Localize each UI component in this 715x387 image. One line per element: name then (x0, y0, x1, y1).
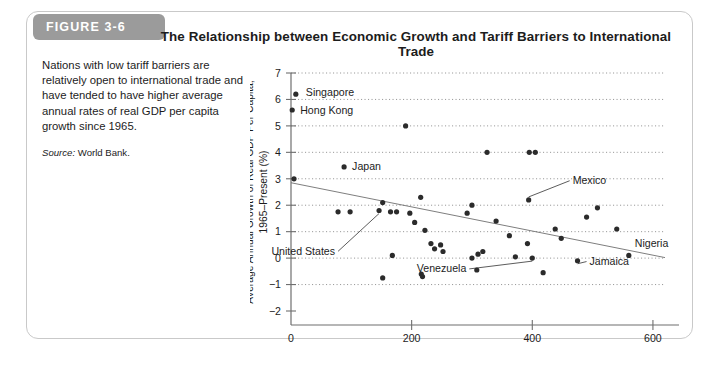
x-tick-group: 0200400600 (288, 320, 662, 344)
data-point (507, 233, 512, 238)
data-point (525, 241, 530, 246)
data-point (553, 226, 558, 231)
scatter-plot-svg: −2−101234567 0200400600 SingaporeHong Ko… (250, 58, 690, 358)
data-point (559, 236, 564, 241)
data-point (418, 195, 423, 200)
point-label: United States (271, 245, 335, 257)
data-point (533, 150, 538, 155)
point-label: Hong Kong (300, 104, 353, 116)
caption-source: Source: World Bank. (42, 147, 250, 158)
data-point (575, 258, 580, 263)
y-tick-label: 3 (275, 173, 281, 185)
label-leader-line (338, 214, 379, 252)
data-point (407, 211, 412, 216)
point-label: Japan (352, 160, 381, 172)
source-word: Source: (42, 147, 75, 158)
figure-number-label: FIGURE 3-6 (46, 20, 126, 34)
data-point (293, 92, 298, 97)
data-point (390, 253, 395, 258)
data-point (480, 249, 485, 254)
data-point (432, 246, 437, 251)
label-leader-line (529, 181, 570, 197)
y-axis-title-line: Average Annual Growth of Real GDP Per Ca… (250, 80, 255, 303)
y-tick-label: 5 (275, 120, 281, 132)
data-point (526, 197, 531, 202)
data-point (380, 200, 385, 205)
point-label: Singapore (306, 86, 354, 98)
trendline-group (291, 183, 665, 258)
data-point (614, 226, 619, 231)
data-point (412, 220, 417, 225)
data-point (290, 107, 295, 112)
caption-body: Nations with low tariff barriers are rel… (42, 58, 250, 134)
data-point (493, 218, 498, 223)
y-tick-label: 4 (275, 146, 281, 158)
y-axis-title-group: Average Annual Growth of Real GDP Per Ca… (250, 80, 269, 303)
data-point (474, 267, 479, 272)
point-label: Jamaica (590, 255, 630, 267)
data-point (527, 150, 532, 155)
y-tick-label: 7 (275, 67, 281, 79)
figure-caption: Nations with low tariff barriers are rel… (42, 58, 250, 158)
data-point (541, 270, 546, 275)
y-tick-label: 1 (275, 225, 281, 237)
data-points-group (290, 92, 632, 281)
data-point (475, 252, 480, 257)
data-point (394, 209, 399, 214)
label-leader-line (469, 261, 532, 269)
y-tick-label: −2 (269, 305, 281, 317)
data-point (348, 209, 353, 214)
trend-line (291, 183, 665, 258)
data-point (341, 164, 346, 169)
y-tick-label: 6 (275, 93, 281, 105)
source-value: World Bank. (75, 147, 130, 158)
data-point (484, 150, 489, 155)
data-point (403, 123, 408, 128)
data-point (380, 275, 385, 280)
y-tick-label: 2 (275, 199, 281, 211)
data-point (420, 274, 425, 279)
data-point (469, 203, 474, 208)
x-tick-label: 400 (523, 332, 541, 344)
leader-line-group (338, 181, 586, 269)
data-point (376, 208, 381, 213)
data-point (438, 242, 443, 247)
figure-title: The Relationship between Economic Growth… (146, 29, 686, 59)
point-label: Nigeria (635, 237, 669, 249)
y-tick-label: −1 (269, 278, 281, 290)
data-point (291, 176, 296, 181)
data-point (530, 256, 535, 261)
data-point (469, 256, 474, 261)
data-point (388, 209, 393, 214)
x-tick-label: 600 (644, 332, 662, 344)
figure-page: FIGURE 3-6 The Relationship between Econ… (0, 0, 715, 387)
point-label: Mexico (573, 174, 607, 186)
data-point (428, 241, 433, 246)
scatter-plot: −2−101234567 0200400600 SingaporeHong Ko… (250, 58, 690, 358)
data-point (513, 254, 518, 259)
point-label: Venezuela (417, 262, 467, 274)
data-point (584, 215, 589, 220)
data-point (440, 249, 445, 254)
x-tick-label: 0 (288, 332, 294, 344)
data-point (422, 228, 427, 233)
data-point (465, 211, 470, 216)
data-point (335, 209, 340, 214)
y-tick-group: −2−101234567 (269, 67, 296, 317)
x-tick-label: 200 (403, 332, 421, 344)
y-axis-title-line: 1965–Present (%) (258, 151, 269, 234)
data-point (595, 205, 600, 210)
